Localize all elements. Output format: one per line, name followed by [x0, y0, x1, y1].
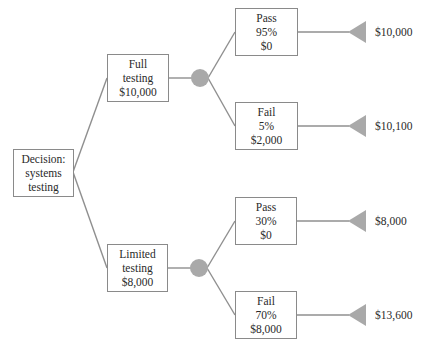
outcome-cost: $2,000	[251, 133, 283, 147]
branch-line-limited	[73, 172, 107, 268]
payoff-limited-fail: $13,600	[375, 308, 412, 322]
chance-node-limited-icon	[190, 259, 208, 277]
terminal-triangle-icon	[348, 304, 366, 326]
outcome-probability: 95%	[256, 25, 277, 39]
terminal-triangle-icon	[348, 210, 366, 232]
node-label-line: systems	[25, 166, 61, 180]
node-cost: $10,000	[119, 85, 156, 99]
node-label-line: testing	[28, 180, 59, 194]
outcome-probability: 5%	[259, 119, 274, 133]
outcome-probability: 30%	[255, 214, 276, 228]
terminal-triangle-icon	[348, 115, 366, 137]
outcome-cost: $0	[260, 228, 272, 242]
outcome-cost: $8,000	[250, 322, 282, 336]
payoff-full-pass: $10,000	[375, 25, 412, 39]
branch-line-full	[73, 78, 107, 172]
node-label-line: Full	[129, 57, 148, 71]
node-label-line: Decision:	[21, 152, 65, 166]
branch-line-full-fail	[208, 78, 235, 126]
alternative-node-full-testing: Full testing $10,000	[107, 54, 169, 102]
payoff-full-fail: $10,100	[375, 119, 412, 133]
branch-line-limited-pass	[207, 221, 235, 268]
decision-node-root: Decision: systems testing	[13, 149, 74, 197]
branch-line-full-pass	[208, 32, 235, 78]
chance-node-full-icon	[191, 69, 209, 87]
payoff-limited-pass: $8,000	[375, 214, 407, 228]
outcome-node-full-fail: Fail 5% $2,000	[235, 102, 298, 150]
outcome-label: Fail	[258, 105, 276, 119]
outcome-label: Pass	[256, 200, 276, 214]
alternative-node-limited-testing: Limited testing $8,000	[107, 244, 168, 292]
terminal-triangle-icon	[348, 21, 366, 43]
branch-line-limited-fail	[207, 268, 235, 315]
outcome-node-limited-fail: Fail 70% $8,000	[235, 291, 297, 339]
node-cost: $8,000	[122, 275, 154, 289]
outcome-probability: 70%	[255, 308, 276, 322]
outcome-cost: $0	[261, 39, 273, 53]
node-label-line: testing	[122, 261, 153, 275]
outcome-node-full-pass: Pass 95% $0	[235, 8, 298, 56]
outcome-node-limited-pass: Pass 30% $0	[235, 197, 297, 245]
node-label-line: testing	[123, 71, 154, 85]
outcome-label: Fail	[257, 294, 275, 308]
outcome-label: Pass	[256, 11, 276, 25]
node-label-line: Limited	[119, 247, 155, 261]
